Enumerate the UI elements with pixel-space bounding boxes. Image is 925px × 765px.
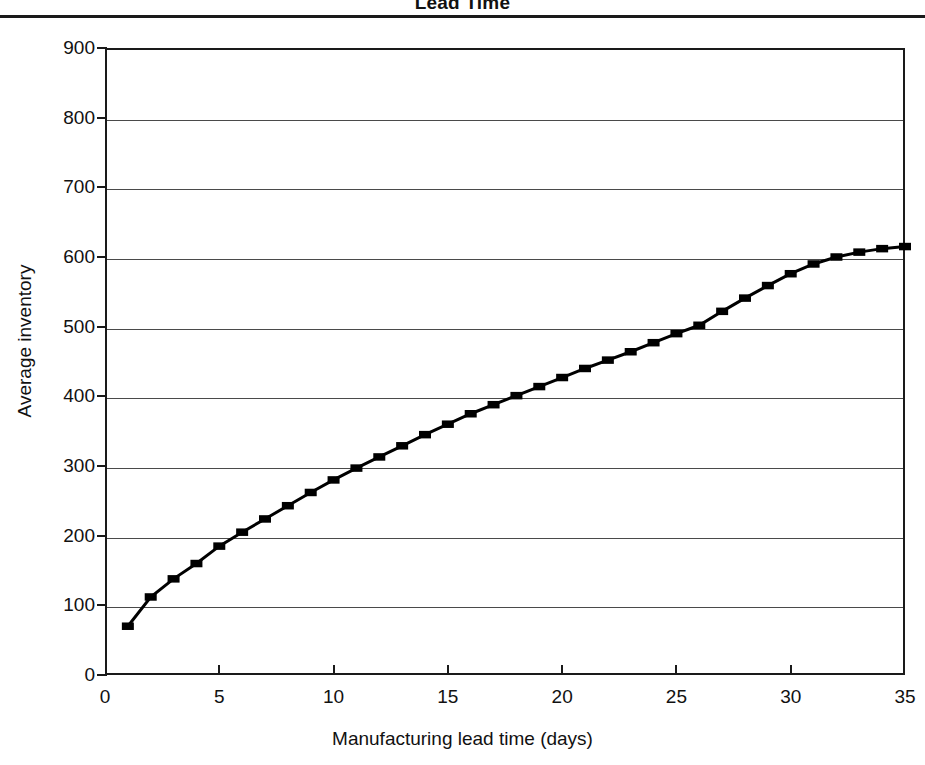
- x-tick-label: 35: [894, 686, 915, 708]
- data-point-marker: [762, 282, 774, 290]
- y-tick-mark: [97, 604, 107, 606]
- data-point-marker: [213, 542, 225, 550]
- y-axis-title: Average inventory: [14, 211, 36, 471]
- x-tick-label: 15: [437, 686, 458, 708]
- chart-figure: Lead Time 0100200300400500600700800900 M…: [0, 0, 925, 765]
- data-point-marker: [739, 294, 751, 302]
- data-point-marker: [716, 308, 728, 316]
- data-point-marker: [602, 356, 614, 364]
- series-line: [128, 247, 905, 627]
- data-point-marker: [259, 515, 271, 523]
- data-point-marker: [510, 392, 522, 400]
- x-tick-label: 25: [666, 686, 687, 708]
- x-axis-title: Manufacturing lead time (days): [0, 728, 925, 750]
- x-tick-mark: [790, 665, 792, 675]
- series-markers: [122, 243, 911, 630]
- y-tick-mark: [97, 674, 107, 676]
- y-tick-mark: [97, 47, 107, 49]
- data-point-marker: [533, 383, 545, 391]
- x-tick-label: 20: [552, 686, 573, 708]
- data-point-marker: [350, 464, 362, 472]
- x-tick-label: 30: [780, 686, 801, 708]
- data-point-marker: [419, 431, 431, 439]
- data-point-marker: [899, 243, 911, 251]
- x-tick-mark: [333, 665, 335, 675]
- data-point-marker: [442, 420, 454, 428]
- data-point-marker: [282, 502, 294, 510]
- x-tick-label: 5: [214, 686, 225, 708]
- data-point-marker: [190, 560, 202, 568]
- data-point-marker: [305, 489, 317, 497]
- data-point-marker: [670, 330, 682, 338]
- y-tick-mark: [97, 186, 107, 188]
- data-point-marker: [625, 348, 637, 356]
- y-tick-mark: [97, 117, 107, 119]
- data-point-marker: [168, 575, 180, 583]
- data-point-marker: [785, 270, 797, 278]
- data-point-marker: [373, 453, 385, 461]
- x-tick-mark: [447, 665, 449, 675]
- x-tick-label: 10: [323, 686, 344, 708]
- y-tick-mark: [97, 256, 107, 258]
- data-point-marker: [145, 593, 157, 601]
- x-tick-label: 0: [100, 686, 111, 708]
- data-point-marker: [579, 365, 591, 373]
- data-point-marker: [396, 442, 408, 450]
- data-point-marker: [853, 248, 865, 256]
- y-tick-mark: [97, 535, 107, 537]
- x-tick-mark: [675, 665, 677, 675]
- data-point-marker: [556, 374, 568, 382]
- data-series-layer: [0, 0, 925, 765]
- data-point-marker: [465, 410, 477, 418]
- data-point-marker: [236, 528, 248, 536]
- data-point-marker: [830, 253, 842, 261]
- data-point-marker: [808, 260, 820, 268]
- y-tick-mark: [97, 465, 107, 467]
- data-point-marker: [648, 339, 660, 347]
- x-tick-mark: [218, 665, 220, 675]
- data-point-marker: [876, 245, 888, 253]
- y-tick-mark: [97, 395, 107, 397]
- x-tick-mark: [561, 665, 563, 675]
- data-point-marker: [488, 401, 500, 409]
- data-point-marker: [122, 622, 134, 630]
- y-tick-mark: [97, 326, 107, 328]
- data-point-marker: [328, 476, 340, 484]
- data-point-marker: [693, 322, 705, 330]
